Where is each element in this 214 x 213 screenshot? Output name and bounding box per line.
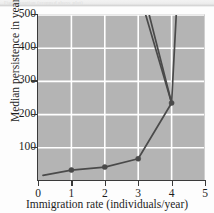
x-tick-mark xyxy=(138,181,139,186)
x-tick-mark xyxy=(38,181,39,186)
x-tick-mark xyxy=(205,181,206,186)
y-tick-label: 500 xyxy=(10,8,36,18)
x-axis-line xyxy=(37,180,206,181)
x-tick-label: 0 xyxy=(28,187,48,199)
y-tick-label-group: 100200300400500 xyxy=(8,0,36,213)
x-tick-label: 4 xyxy=(162,187,182,199)
data-point-marker xyxy=(169,100,174,105)
data-point-marker xyxy=(102,165,107,170)
x-tick-label: 2 xyxy=(95,187,115,199)
x-tick-mark xyxy=(105,181,106,186)
data-line-upper-bound-outer- xyxy=(140,15,172,103)
data-line-upper-branch-right- xyxy=(172,15,178,103)
y-tick-label: 200 xyxy=(10,108,36,118)
y-tick-label: 100 xyxy=(10,141,36,151)
data-point-marker xyxy=(69,168,74,173)
x-tick-label: 5 xyxy=(195,187,214,199)
y-tick-mark xyxy=(31,47,37,48)
y-axis-line xyxy=(37,14,38,181)
plot-area xyxy=(38,14,205,180)
x-tick-mark xyxy=(172,181,173,186)
plot-svg xyxy=(38,15,205,180)
y-tick-mark xyxy=(31,114,37,115)
y-tick-mark xyxy=(31,80,37,81)
x-tick-mark xyxy=(71,181,72,186)
figure-line-chart: Figure caption (cropped above plot) Medi… xyxy=(0,0,214,213)
y-tick-label: 400 xyxy=(10,41,36,51)
x-tick-label: 3 xyxy=(128,187,148,199)
data-point-marker xyxy=(136,156,141,161)
y-tick-mark xyxy=(31,147,37,148)
y-tick-mark xyxy=(31,14,37,15)
y-tick-label: 300 xyxy=(10,74,36,84)
x-axis-label: Immigration rate (individuals/year) xyxy=(0,198,214,210)
x-tick-label: 1 xyxy=(61,187,81,199)
